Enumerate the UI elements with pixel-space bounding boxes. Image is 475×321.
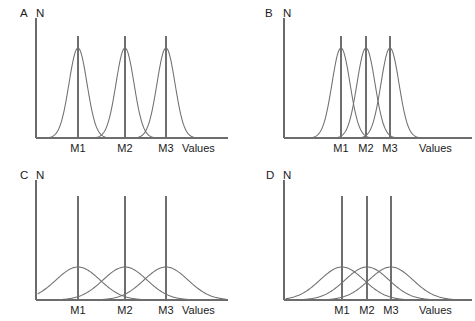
panel-c-plot: CNM1M2M3Values	[0, 160, 237, 320]
panel-b: BNM1M2M3Values	[238, 0, 475, 160]
panel-a-plot: ANM1M2M3Values	[0, 0, 237, 160]
distribution-figure: ANM1M2M3ValuesBNM1M2M3ValuesCNM1M2M3Valu…	[0, 0, 475, 321]
panel-d-plot: DNM1M2M3Values	[238, 160, 475, 320]
distribution-curve-m3	[286, 267, 469, 300]
x-axis-label: Values	[182, 304, 215, 316]
y-axis-label: N	[283, 7, 291, 19]
distribution-curve-m3	[288, 48, 470, 138]
x-axis-label: Values	[182, 142, 215, 154]
tick-label-m1: M1	[333, 142, 348, 154]
panel-letter: A	[20, 7, 28, 19]
y-axis-label: N	[283, 169, 291, 181]
y-axis-label: N	[36, 169, 44, 181]
tick-label-m3: M3	[158, 142, 173, 154]
x-axis-label: Values	[419, 304, 452, 316]
distribution-curve-m1	[38, 267, 226, 300]
panel-letter: B	[265, 7, 273, 19]
tick-label-m2: M2	[117, 304, 132, 316]
panel-c: CNM1M2M3Values	[0, 160, 237, 320]
tick-label-m3: M3	[382, 142, 397, 154]
panel-letter: D	[266, 169, 274, 181]
tick-label-m2: M2	[117, 142, 132, 154]
tick-label-m1: M1	[70, 142, 85, 154]
panel-letter: C	[20, 169, 28, 181]
tick-label-m1: M1	[70, 304, 85, 316]
tick-label-m2: M2	[358, 142, 373, 154]
panel-d: DNM1M2M3Values	[238, 160, 475, 320]
tick-label-m3: M3	[158, 304, 173, 316]
panel-b-plot: BNM1M2M3Values	[238, 0, 475, 160]
panel-a: ANM1M2M3Values	[0, 0, 237, 160]
tick-label-m1: M1	[334, 304, 349, 316]
tick-label-m3: M3	[383, 304, 398, 316]
distribution-curve-m1	[40, 48, 225, 138]
tick-label-m2: M2	[359, 304, 374, 316]
x-axis-label: Values	[419, 142, 452, 154]
y-axis-label: N	[36, 7, 44, 19]
